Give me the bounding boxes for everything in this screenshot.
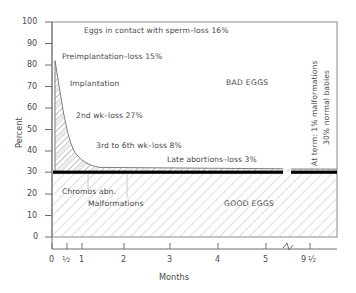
annotation-at-term-malformations: At term: 1% malformations (310, 61, 319, 166)
annotation-chromos-abn: Chromos abn. (62, 187, 116, 196)
x-tick-4: 4 (215, 255, 220, 264)
y-tick-100: 100 (22, 17, 37, 26)
survival-line (53, 171, 337, 174)
annotation-good-eggs: GOOD EGGS (224, 199, 274, 208)
annotation-sperm-loss: Eggs in contact with sperm–loss 16% (84, 26, 229, 35)
y-tick-50: 50 (27, 125, 37, 134)
y-tick-90: 90 (27, 39, 37, 48)
x-tick-5: 5 (263, 255, 268, 264)
annotation-implantation: Implantation (70, 79, 119, 88)
y-tick-10: 10 (27, 211, 37, 220)
annotation-malformations: Malformations (88, 199, 143, 208)
y-tick-0: 0 (33, 232, 38, 241)
x-tick-1: 1 (79, 255, 84, 264)
x-tick-half: 1⁄2 (62, 255, 70, 264)
x-tick-3: 3 (167, 255, 172, 264)
annotation-preimplantation: Preimplantation–loss 15% (62, 52, 162, 61)
y-tick-70: 70 (27, 82, 37, 91)
x-tick-0: 0 (49, 255, 54, 264)
annotation-at-term-normal-babies: 30% normal babies (322, 70, 331, 145)
annotation-third-sixth-week: 3rd to 6th wk–loss 8% (96, 141, 182, 150)
x-tick-9-half: 9 1⁄2 (301, 255, 316, 264)
y-tick-80: 80 (27, 60, 37, 69)
y-axis-title: Percent (14, 117, 24, 148)
y-tick-40: 40 (27, 146, 37, 155)
annotation-second-week: 2nd wk–loss 27% (76, 111, 143, 120)
x-tick-2: 2 (121, 255, 126, 264)
x-axis-title: Months (159, 272, 189, 282)
axis-break-icon (283, 243, 293, 252)
y-tick-60: 60 (27, 103, 37, 112)
x-axis (52, 237, 337, 249)
y-axis (45, 22, 52, 237)
annotation-bad-eggs: BAD EGGS (226, 78, 268, 87)
chart-figure: 100 90 80 70 60 50 40 30 20 10 0 Percent… (0, 0, 356, 293)
y-tick-20: 20 (27, 189, 37, 198)
y-tick-30: 30 (27, 167, 37, 176)
annotation-late-abortions: Late abortions–loss 3% (167, 155, 257, 164)
